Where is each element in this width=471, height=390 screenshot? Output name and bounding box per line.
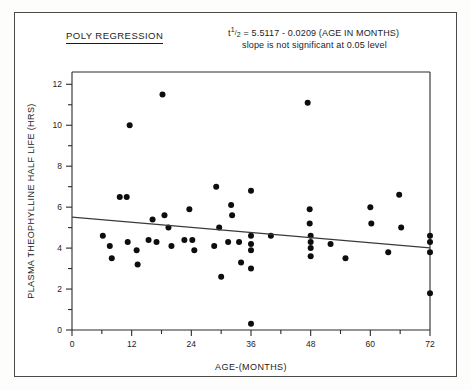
y-tick-label: 6 (57, 202, 62, 212)
x-tick-label: 60 (366, 339, 376, 349)
x-tick-label: 0 (70, 339, 75, 349)
data-point (427, 249, 433, 255)
data-point (367, 204, 373, 210)
data-point (124, 194, 130, 200)
data-point (229, 212, 235, 218)
data-point (181, 237, 187, 243)
data-point (396, 192, 402, 198)
data-point (135, 261, 141, 267)
axes-group (72, 72, 430, 330)
data-point (228, 202, 234, 208)
figure-canvas: POLY REGRESSION t1/2 = 5.5117 - 0.0209 (… (0, 0, 471, 390)
data-point (161, 212, 167, 218)
data-point (307, 206, 313, 212)
data-point (248, 233, 254, 239)
y-axis-label: PLASMA THEOPHYLLINE HALF LIFE (HRS) (26, 103, 36, 298)
data-point (213, 184, 219, 190)
data-point (248, 321, 254, 327)
data-point (368, 221, 374, 227)
y-tick-label: 0 (57, 325, 62, 335)
data-point (248, 241, 254, 247)
data-point (236, 239, 242, 245)
data-point (328, 241, 334, 247)
data-point (168, 243, 174, 249)
data-point (154, 239, 160, 245)
data-point (191, 247, 197, 253)
x-axis-ticks: 0122436486072 (70, 330, 435, 349)
data-point (186, 206, 192, 212)
data-point (134, 247, 140, 253)
data-point (342, 255, 348, 261)
x-axis-label: AGE-(MONTHS) (215, 362, 287, 372)
y-tick-label: 8 (57, 161, 62, 171)
data-point (307, 221, 313, 227)
data-point (238, 259, 244, 265)
y-axis-ticks: 024681012 (53, 79, 72, 335)
data-point (159, 92, 165, 98)
data-point (248, 247, 254, 253)
scatter-plot: 0122436486072 024681012 AGE-(MONTHS) PLA… (0, 0, 471, 390)
data-point (427, 233, 433, 239)
data-point (427, 239, 433, 245)
data-point (146, 237, 152, 243)
data-point (427, 290, 433, 296)
data-point (248, 188, 254, 194)
data-point (127, 122, 133, 128)
y-tick-label: 4 (57, 243, 62, 253)
data-point (385, 249, 391, 255)
data-points-group (100, 92, 433, 327)
x-tick-label: 12 (127, 339, 137, 349)
data-point (125, 239, 131, 245)
x-tick-label: 36 (246, 339, 256, 349)
x-tick-label: 72 (425, 339, 435, 349)
data-point (100, 233, 106, 239)
data-point (225, 239, 231, 245)
data-point (218, 274, 224, 280)
data-point (308, 245, 314, 251)
data-point (107, 243, 113, 249)
x-tick-label: 24 (187, 339, 197, 349)
data-point (398, 225, 404, 231)
y-tick-label: 10 (53, 120, 63, 130)
data-point (211, 243, 217, 249)
data-point (308, 253, 314, 259)
data-point (308, 239, 314, 245)
data-point (189, 237, 195, 243)
x-tick-label: 48 (306, 339, 316, 349)
data-point (248, 266, 254, 272)
data-point (117, 194, 123, 200)
data-point (150, 216, 156, 222)
data-point (305, 100, 311, 106)
y-tick-label: 2 (57, 284, 62, 294)
y-tick-label: 12 (53, 79, 63, 89)
data-point (109, 255, 115, 261)
